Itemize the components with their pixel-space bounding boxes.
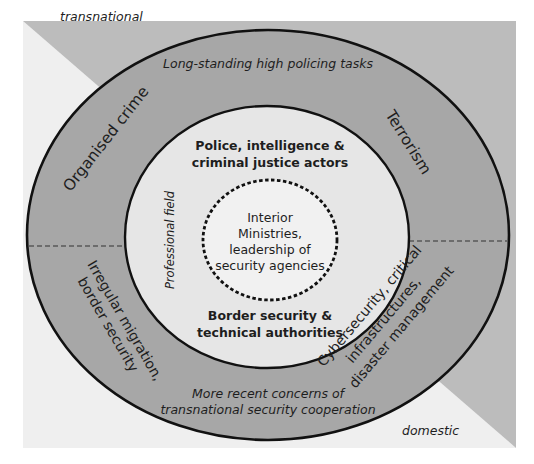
core-line3: leadership of (229, 242, 311, 257)
top-actors-line2: criminal justice actors (192, 155, 348, 170)
core-line2: Ministries, (238, 226, 302, 241)
core-line1: Interior (247, 210, 293, 225)
security-cooperation-diagram: transnational domestic Long-standing hig… (0, 0, 534, 464)
bottom-band-label-line1: More recent concerns of (192, 386, 346, 401)
bottom-actors-line2: technical authorities (197, 325, 343, 340)
transnational-label: transnational (60, 9, 143, 24)
bottom-actors-line1: Border security & (208, 308, 332, 323)
top-band-label: Long-standing high policing tasks (163, 56, 373, 71)
professional-field-label: Professional field (163, 190, 177, 289)
core-line4: security agencies (215, 258, 325, 273)
bottom-band-label-line2: transnational security cooperation (160, 402, 375, 417)
top-actors-line1: Police, intelligence & (195, 138, 344, 153)
domestic-label: domestic (402, 423, 459, 438)
